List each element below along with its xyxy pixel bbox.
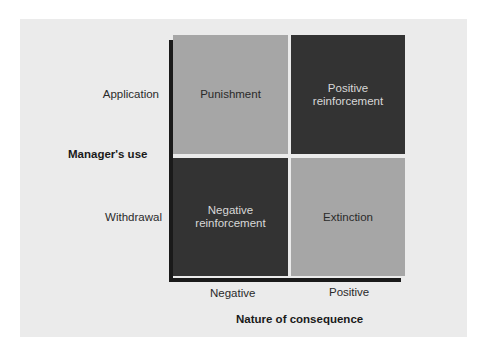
quadrant-label: Punishment bbox=[200, 88, 261, 101]
quadrant-label: Positive reinforcement bbox=[313, 82, 383, 108]
label-line-1: Positive bbox=[328, 82, 368, 94]
row-label-application: Application bbox=[103, 88, 159, 100]
row-label-withdrawal: Withdrawal bbox=[105, 211, 162, 223]
y-axis-line bbox=[169, 40, 173, 282]
column-label-positive: Positive bbox=[329, 286, 369, 298]
quadrant-extinction: Extinction bbox=[291, 158, 405, 276]
label-line-2: reinforcement bbox=[195, 217, 265, 229]
quadrant-label: Extinction bbox=[323, 211, 373, 224]
x-axis-title: Nature of consequence bbox=[236, 313, 363, 325]
y-axis-title: Manager's use bbox=[68, 148, 147, 160]
x-axis-line bbox=[169, 278, 401, 282]
label-line-1: Negative bbox=[208, 204, 253, 216]
quadrant-punishment: Punishment bbox=[173, 35, 288, 154]
label-line-2: reinforcement bbox=[313, 95, 383, 107]
quadrant-negative-reinforcement: Negative reinforcement bbox=[173, 158, 288, 276]
column-label-negative: Negative bbox=[210, 287, 255, 299]
quadrant-positive-reinforcement: Positive reinforcement bbox=[291, 35, 405, 154]
quadrant-label: Negative reinforcement bbox=[195, 204, 265, 230]
